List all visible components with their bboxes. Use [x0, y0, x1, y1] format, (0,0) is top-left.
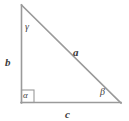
- side-label-b: b: [5, 57, 11, 68]
- right-triangle-figure: b c a γ α β: [0, 0, 129, 121]
- angle-label-alpha: α: [23, 91, 28, 100]
- side-label-c: c: [65, 109, 70, 120]
- angle-label-gamma: γ: [25, 22, 29, 32]
- side-a-line: [22, 5, 122, 103]
- triangle-graphic: [0, 0, 129, 121]
- angle-label-beta: β: [100, 87, 105, 97]
- side-label-a: a: [73, 47, 79, 58]
